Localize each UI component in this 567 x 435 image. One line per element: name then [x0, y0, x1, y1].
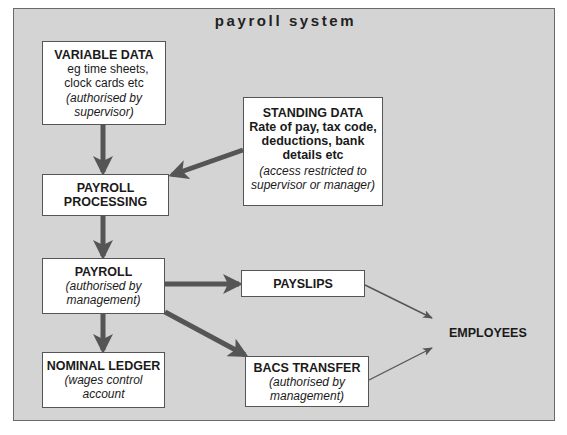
- node-nominal-ledger: NOMINAL LEDGER (wages control account: [42, 352, 165, 408]
- bacs-transfer-note2: management): [246, 389, 368, 403]
- variable-data-line2: clock cards etc: [43, 76, 165, 90]
- arrow-payslips-to-employees: [365, 285, 432, 318]
- payroll-processing-line1: PAYROLL: [43, 181, 168, 195]
- variable-data-note2: supervisor): [43, 105, 165, 119]
- payroll-note2: management): [43, 293, 164, 307]
- standing-data-line3: details etc: [244, 148, 382, 162]
- bacs-transfer-heading: BACS TRANSFER: [246, 361, 368, 375]
- variable-data-line1: eg time sheets,: [43, 62, 165, 76]
- arrow-payroll-to-bacs: [165, 312, 245, 355]
- nominal-ledger-note2: account: [43, 387, 164, 401]
- node-bacs-transfer: BACS TRANSFER (authorised by management): [245, 356, 369, 407]
- standing-data-note2: supervisor or manager): [244, 178, 382, 192]
- node-variable-data: VARIABLE DATA eg time sheets, clock card…: [42, 41, 166, 125]
- standing-data-line2: deductions, bank: [244, 134, 382, 148]
- standing-data-line1: Rate of pay, tax code,: [244, 120, 382, 134]
- standing-data-heading: STANDING DATA: [244, 106, 382, 120]
- node-employees: EMPLOYEES: [449, 326, 527, 340]
- payslips-heading: PAYSLIPS: [242, 277, 364, 291]
- node-standing-data: STANDING DATA Rate of pay, tax code, ded…: [243, 97, 383, 206]
- payroll-processing-line2: PROCESSING: [43, 195, 168, 209]
- payroll-heading: PAYROLL: [43, 265, 164, 279]
- arrow-standing-to-processing: [172, 150, 243, 175]
- node-payslips: PAYSLIPS: [241, 270, 365, 297]
- standing-data-note1: (access restricted to: [244, 164, 382, 178]
- bacs-transfer-note1: (authorised by: [246, 375, 368, 389]
- node-payroll: PAYROLL (authorised by management): [42, 258, 165, 314]
- nominal-ledger-heading: NOMINAL LEDGER: [43, 359, 164, 373]
- arrow-bacs-to-employees: [369, 348, 432, 380]
- node-payroll-processing: PAYROLL PROCESSING: [42, 174, 169, 216]
- variable-data-heading: VARIABLE DATA: [43, 48, 165, 62]
- nominal-ledger-note1: (wages control: [43, 373, 164, 387]
- variable-data-note1: (authorised by: [43, 91, 165, 105]
- payroll-note1: (authorised by: [43, 279, 164, 293]
